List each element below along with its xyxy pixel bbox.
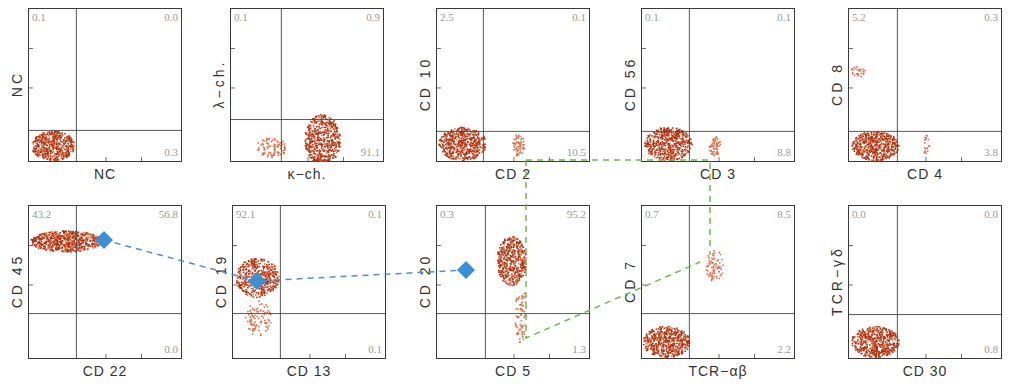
scatter-plot [849,206,1001,358]
quadrant-percent-br: 1.3 [572,344,586,355]
quadrant-percent-tr: 0.0 [984,209,998,220]
dot-plot-panel: 0.395.21.3 [436,205,590,359]
quadrant-percent-tl: 0.0 [852,209,866,220]
quadrant-percent-tl: 0.7 [645,209,659,220]
scatter-plot [437,9,589,161]
quadrant-percent-br: 0.0 [164,344,178,355]
quadrant-percent-tr: 0.9 [366,12,380,23]
quadrant-percent-tr: 95.2 [567,209,586,220]
dot-plot-panel: 0.10.991.1 [230,8,384,162]
y-axis-label: CD 19 [213,204,229,358]
quadrant-percent-tr: 0.0 [164,12,178,23]
scatter-plot [233,206,385,358]
dot-plot-panel: 92.10.10.1 [232,205,386,359]
dot-plot-panel: 0.10.00.3 [28,8,182,162]
y-axis-label: TCR−γδ [829,204,845,358]
scatter-plot [231,9,383,161]
x-axis-label: CD 2 [436,166,590,182]
quadrant-percent-tl: 0.3 [440,209,454,220]
quadrant-percent-br: 8.8 [777,147,791,158]
y-axis-label: NC [9,7,25,161]
scatter-plot [29,9,181,161]
quadrant-percent-tr: 0.1 [368,209,382,220]
quadrant-percent-br: 0.1 [368,344,382,355]
scatter-plot [642,206,794,358]
dot-plot-panel: 0.10.18.8 [641,8,795,162]
quadrant-percent-tr: 0.1 [572,12,586,23]
y-axis-label: CD 56 [622,7,638,161]
quadrant-percent-br: 91.1 [361,147,380,158]
quadrant-percent-br: 3.8 [984,147,998,158]
scatter-plot [849,9,1001,161]
dot-plot-panel: 0.78.52.2 [641,205,795,359]
quadrant-percent-br: 10.5 [567,147,586,158]
y-axis-label: CD 20 [417,204,433,358]
quadrant-percent-br: 2.2 [777,344,791,355]
quadrant-percent-tr: 8.5 [777,209,791,220]
dot-plot-panel: 2.50.110.5 [436,8,590,162]
x-axis-label: CD 13 [232,363,386,379]
scatter-plot [437,206,589,358]
quadrant-percent-br: 0.3 [164,147,178,158]
y-axis-label: λ−ch. [211,7,227,161]
quadrant-percent-tl: 0.1 [234,12,248,23]
y-axis-label: CD 8 [829,7,845,161]
quadrant-percent-tl: 43.2 [32,209,51,220]
x-axis-label: CD 30 [848,363,1002,379]
y-axis-label: CD 7 [622,204,638,358]
dot-plot-panel: 43.256.80.0 [28,205,182,359]
quadrant-percent-tr: 0.1 [777,12,791,23]
x-axis-label: TCR−αβ [641,363,795,379]
quadrant-percent-tl: 92.1 [236,209,255,220]
x-axis-label: CD 4 [848,166,1002,182]
quadrant-percent-tl: 2.5 [440,12,454,23]
x-axis-label: CD 3 [641,166,795,182]
quadrant-percent-tl: 5.2 [852,12,866,23]
x-axis-label: NC [28,166,182,182]
quadrant-percent-br: 0.8 [984,344,998,355]
quadrant-percent-tr: 0.3 [984,12,998,23]
x-axis-label: κ−ch. [230,166,384,182]
quadrant-percent-tl: 0.1 [645,12,659,23]
y-axis-label: CD 45 [9,204,25,358]
x-axis-label: CD 22 [28,363,182,379]
x-axis-label: CD 5 [436,363,590,379]
quadrant-percent-tl: 0.1 [32,12,46,23]
y-axis-label: CD 10 [417,7,433,161]
scatter-plot [29,206,181,358]
scatter-plot [642,9,794,161]
dot-plot-panel: 0.00.00.8 [848,205,1002,359]
quadrant-percent-tr: 56.8 [159,209,178,220]
dot-plot-panel: 5.20.33.8 [848,8,1002,162]
